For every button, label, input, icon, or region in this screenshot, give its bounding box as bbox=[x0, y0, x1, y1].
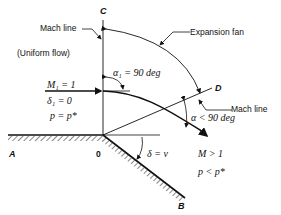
mach-line-upper-leader bbox=[82, 29, 101, 39]
point-a-label: A bbox=[9, 150, 16, 159]
expansion-fan-arc bbox=[106, 29, 200, 93]
upstream-pressure-label: p = p* bbox=[50, 111, 77, 121]
expansion-fan-label: Expansion fan bbox=[190, 28, 244, 37]
upstream-mach-label: M₁ = 1 bbox=[47, 80, 76, 90]
point-c-label: C bbox=[100, 7, 107, 16]
downstream-mach-label: M > 1 bbox=[198, 149, 223, 159]
alpha1-arc bbox=[106, 77, 123, 89]
alpha-label: α < 90 deg bbox=[191, 113, 235, 123]
alpha-arc bbox=[184, 100, 187, 127]
delta-arc bbox=[137, 137, 142, 159]
point-d-label: D bbox=[215, 84, 222, 93]
wall-upstream bbox=[8, 135, 103, 141]
point-b-label: B bbox=[178, 202, 185, 211]
upstream-delta-label: δ₁ = 0 bbox=[47, 96, 72, 106]
delta-nu-label: δ = ν bbox=[147, 149, 168, 159]
mach-line-upper-label: Mach line bbox=[40, 24, 76, 33]
uniform-flow-label: (Uniform flow) bbox=[17, 49, 70, 58]
alpha1-label: α₁ = 90 deg bbox=[113, 68, 160, 78]
downstream-pressure-label: p < p* bbox=[198, 167, 225, 177]
mach-line-lower-label: Mach line bbox=[231, 105, 267, 114]
point-o-label: 0 bbox=[96, 150, 101, 159]
mach-line-lower-leader bbox=[199, 100, 232, 110]
expansion-fan-leader bbox=[160, 32, 190, 45]
